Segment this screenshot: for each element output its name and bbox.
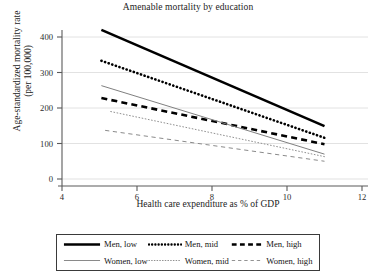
series-line-men-high: [101, 98, 324, 144]
series-line-men-low: [101, 30, 324, 126]
legend-item[interactable]: Women, high: [231, 256, 315, 266]
legend-swatch-dotted: [148, 256, 182, 265]
series-line-women-high: [105, 130, 324, 161]
legend-label: Women, high: [266, 256, 312, 266]
legend-label: Men, low: [104, 239, 137, 249]
series-line-women-mid: [111, 112, 325, 157]
legend-swatch-solid: [63, 256, 101, 265]
y-tick-label: 200: [40, 103, 53, 113]
legend-swatch-solid: [63, 240, 101, 249]
gridlines: [62, 37, 368, 179]
legend-item[interactable]: Men, mid: [148, 239, 232, 249]
plot-area: 0100200300400 4681012: [0, 0, 376, 232]
legend-swatch-dashed: [231, 240, 263, 249]
legend-item[interactable]: Women, mid: [148, 256, 232, 266]
chart-legend: Men, lowMen, midMen, highWomen, lowWomen…: [56, 234, 320, 271]
data-series-group: [101, 30, 324, 161]
y-tick-label: 400: [40, 32, 53, 42]
legend-label: Women, low: [104, 256, 148, 266]
legend-swatch-dotted: [148, 240, 182, 249]
chart-figure: Amenable mortality by education Age-stan…: [0, 0, 376, 279]
y-tick-label: 100: [40, 139, 53, 149]
y-axis-ticks: 0100200300400: [40, 32, 62, 184]
legend-label: Men, high: [266, 239, 301, 249]
y-tick-label: 300: [40, 68, 53, 78]
legend-item[interactable]: Women, low: [63, 256, 148, 266]
legend-item[interactable]: Men, high: [231, 239, 315, 249]
legend-item[interactable]: Men, low: [63, 239, 148, 249]
x-axis-label: Health care expenditure as % of GDP: [40, 199, 376, 209]
legend-label: Men, mid: [185, 239, 218, 249]
y-tick-label: 0: [49, 174, 53, 184]
legend-swatch-dashed: [231, 256, 263, 265]
legend-label: Women, mid: [185, 256, 229, 266]
